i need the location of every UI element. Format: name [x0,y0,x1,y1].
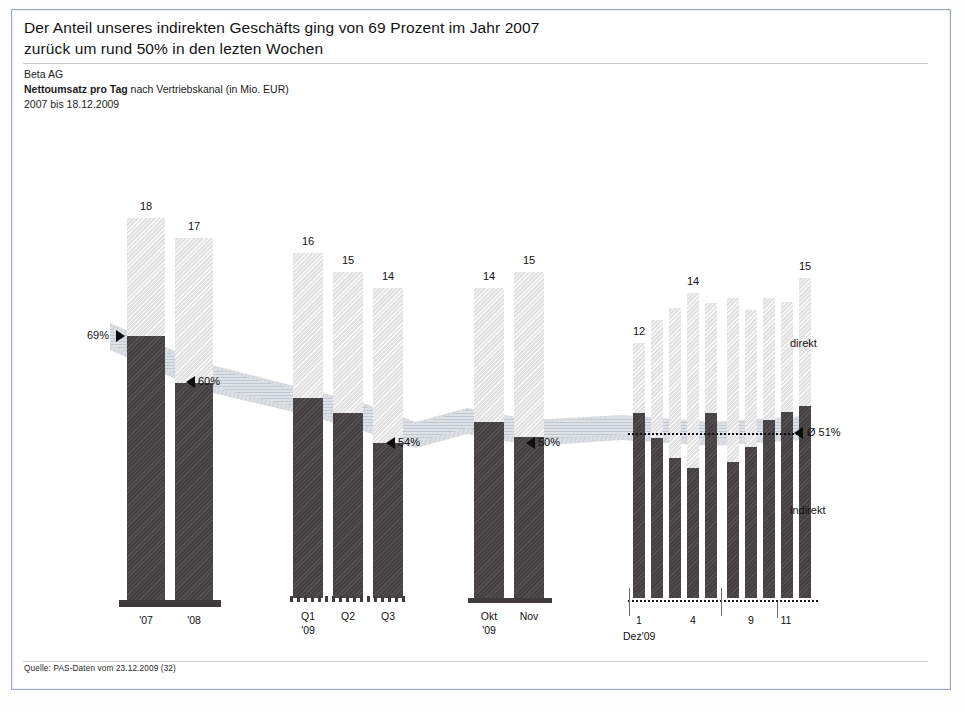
source-note: Quelle: PAS-Daten vom 23.12.2009 (32) [24,664,176,673]
axis-sublabel-months: '09 [474,624,504,636]
average-line [628,433,802,435]
callout-54: 54% [398,436,420,448]
dez-separator-mid [721,588,722,616]
axis-label-dez-1: 1 [627,614,651,626]
bar-value-dez-1: 12 [627,325,651,337]
axis-label-nov: Nov [514,610,544,622]
bar-q2-direkt [333,272,363,413]
axis-label-dez-9: 9 [739,614,763,626]
callout-60-arrow [186,376,195,388]
bar-value-2008: 17 [175,220,213,232]
axis-label-dez-11: 11 [774,614,798,626]
bar-dez-4 [687,293,699,598]
bar-dez-1-direkt [633,343,645,413]
axis-sublabel-quarters: '09 [293,624,323,636]
axis-label-2008: '08 [175,614,213,626]
bar-value-q2: 15 [333,254,363,266]
axis-label-2007: '07 [127,614,165,626]
bar-value-dez-4: 14 [681,275,705,287]
bar-dez-5 [705,303,717,598]
bar-dez-10 [763,298,775,598]
bar-2008-direkt [175,238,213,383]
bar-dez-2-direkt [651,320,663,438]
bar-dez-4-direkt [687,293,699,468]
axis-label-q3: Q3 [373,610,403,622]
axis-label-dez-4: 4 [681,614,705,626]
footer-divider [23,661,928,662]
legend-direkt: direkt [790,337,817,349]
callout-60: 60% [198,375,220,387]
axis-label-okt: Okt [474,610,504,622]
bar-dez-9-indirekt [745,447,757,598]
bar-2007 [127,218,165,600]
bar-dez-4-indirekt [687,468,699,598]
bar-value-dez-12: 15 [793,260,817,272]
baseline-dezember [628,600,818,602]
callout-50: 50% [538,436,560,448]
axis-sublabel-dezember: Dez'09 [623,630,673,642]
bar-dez-9-direkt [745,310,757,447]
callout-50-arrow [526,437,535,449]
bar-nov-direkt [514,272,544,437]
bar-dez-10-direkt [763,298,775,420]
chart-plot-area: 18 17 '07 '08 69% 60% [12,10,950,689]
bar-2008 [175,238,213,600]
bar-2007-indirekt [127,336,165,600]
average-callout-text: Ø 51% [807,426,841,438]
bar-value-okt: 14 [474,270,504,282]
average-arrow [794,427,803,439]
bar-q3-direkt [373,288,403,443]
bar-value-q3: 14 [373,270,403,282]
bar-q3-indirekt [373,443,403,598]
callout-60-text: 60% [198,375,220,387]
bar-q1-indirekt [293,398,323,598]
slide-page: Der Anteil unseres indirekten Geschäfts … [0,0,965,712]
bar-value-2007: 18 [127,200,165,212]
callout-54-text: 54% [398,436,420,448]
bar-okt-indirekt [474,422,504,598]
bar-dez-1-indirekt [633,413,645,598]
callout-54-arrow [386,437,395,449]
bar-q2 [333,272,363,598]
bar-okt [474,288,504,598]
bar-dez-3-direkt [669,308,681,458]
bar-dez-3 [669,308,681,598]
average-callout: Ø 51% [807,426,841,438]
bar-nov-indirekt [514,437,544,598]
bar-value-q1: 16 [293,235,323,247]
bar-dez-2 [651,320,663,598]
bar-dez-3-indirekt [669,458,681,598]
axis-label-q1: Q1 [293,610,323,622]
bar-dez-11-direkt [781,302,793,412]
callout-69-text: 69% [87,329,109,341]
bar-2008-indirekt [175,383,213,600]
bar-dez-5-indirekt [705,413,717,598]
legend-indirekt: indirekt [790,504,825,516]
bar-value-nov: 15 [514,254,544,266]
tickrow-quarters [289,596,409,602]
bar-q2-indirekt [333,413,363,598]
bar-dez-8 [727,298,739,598]
bar-q1-direkt [293,253,323,398]
bar-dez-9 [745,310,757,598]
callout-50-text: 50% [538,436,560,448]
bar-2007-direkt [127,218,165,336]
baseline-months [468,598,552,603]
bar-dez-8-direkt [727,298,739,462]
callout-69-arrow [116,330,125,342]
bar-dez-8-indirekt [727,462,739,598]
bar-nov [514,272,544,598]
bar-dez-1 [633,343,645,598]
bar-dez-5-direkt [705,303,717,413]
slide-frame: Der Anteil unseres indirekten Geschäfts … [11,9,951,690]
bar-dez-2-indirekt [651,438,663,598]
bar-q1 [293,253,323,598]
bar-dez-10-indirekt [763,420,775,598]
dez-separator-start [629,588,630,616]
baseline-years [119,600,221,607]
bar-okt-direkt [474,288,504,422]
callout-69: 69% [87,329,109,341]
axis-label-q2: Q2 [333,610,363,622]
